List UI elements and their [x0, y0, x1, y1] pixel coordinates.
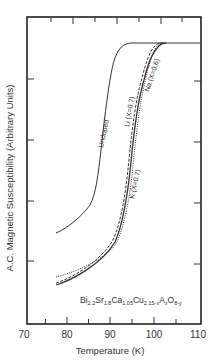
x-tick-90: 90 — [104, 329, 116, 340]
formula-annotation: Bi2.2Sr1.8Ca1.05Cu2.15-xAxO8-y — [80, 295, 182, 306]
y-axis-ticks — [27, 79, 34, 261]
x-tick-100: 100 — [146, 329, 163, 340]
x-tick-labels: 70 80 90 100 110 — [18, 329, 206, 340]
x-tick-70: 70 — [18, 329, 30, 340]
x-axis-title: Temperature (K) — [76, 345, 145, 356]
x-tick-110: 110 — [190, 329, 206, 340]
label-li: Li (X=0.7) — [123, 96, 136, 127]
plot-frame — [27, 17, 201, 324]
susceptibility-chart: 70 80 90 100 110 Temperature (K) A.C. Ma… — [0, 0, 214, 362]
label-undoped: Undoped — [97, 119, 111, 149]
x-tick-80: 80 — [61, 329, 73, 340]
y-axis-title: A.C. Magnetic Susceptibility (Arbitrary … — [4, 85, 15, 272]
top-axis-ticks — [51, 17, 182, 24]
curves — [56, 43, 200, 285]
x-axis-ticks — [46, 317, 177, 324]
right-axis-ticks — [194, 81, 201, 264]
